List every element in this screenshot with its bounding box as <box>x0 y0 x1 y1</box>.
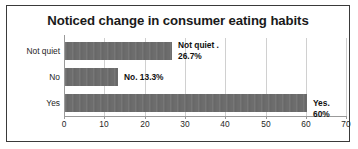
x-tick-label-0: 0 <box>51 120 77 128</box>
x-tick-label-30: 30 <box>172 120 198 128</box>
data-label-not-quiet: Not quiet . 26.7% <box>178 40 219 61</box>
x-tick-label-20: 20 <box>132 120 158 128</box>
bar-not-quiet[interactable]: Not quiet <box>65 42 172 60</box>
x-tick-label-50: 50 <box>253 120 279 128</box>
category-label-yes: Yes <box>46 99 60 107</box>
data-label-yes: Yes. 60% <box>313 98 346 119</box>
bar-no[interactable]: No <box>65 68 118 86</box>
chart-frame: Noticed change in consumer eating habits… <box>6 5 350 142</box>
category-label-not-quiet: Not quiet <box>26 47 60 55</box>
plot-area: Not quiet Not quiet . 26.7% No No. 13.3%… <box>64 38 346 116</box>
category-label-no: No <box>49 73 60 81</box>
x-tick-label-70: 70 <box>333 120 358 128</box>
bar-yes[interactable]: Yes <box>65 94 307 112</box>
x-tick-label-10: 10 <box>91 120 117 128</box>
gridline-70 <box>346 38 347 116</box>
data-label-no: No. 13.3% <box>124 72 164 83</box>
x-tick-label-40: 40 <box>212 120 238 128</box>
x-axis-line <box>64 116 347 117</box>
x-tick-label-60: 60 <box>293 120 319 128</box>
chart-title: Noticed change in consumer eating habits <box>7 13 349 28</box>
